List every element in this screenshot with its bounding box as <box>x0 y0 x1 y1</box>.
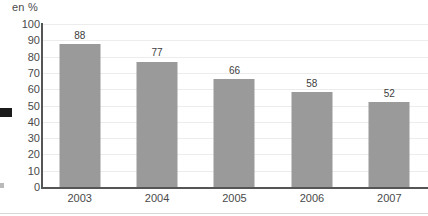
bars-layer: 8877665852 <box>41 24 428 187</box>
y-tick-label: 0 <box>0 181 40 193</box>
bar-group: 58 <box>273 24 350 187</box>
x-tick-label: 2005 <box>196 192 273 204</box>
x-axis-tick-labels: 20032004200520062007 <box>41 192 428 212</box>
x-tick-label: 2006 <box>273 192 350 204</box>
y-tick-label: 90 <box>0 34 40 46</box>
x-tick-label: 2004 <box>118 192 195 204</box>
y-tick-label: 50 <box>0 100 40 112</box>
y-tick-label: 60 <box>0 83 40 95</box>
y-axis-unit-label: en % <box>12 1 38 13</box>
bar-value-label: 88 <box>74 30 85 41</box>
bottom-rule <box>0 213 428 214</box>
bar[interactable] <box>137 62 178 188</box>
bar-value-label: 52 <box>384 88 395 99</box>
bar-group: 66 <box>196 24 273 187</box>
y-tick-label: 80 <box>0 51 40 63</box>
plot-area: 8877665852 <box>41 24 428 187</box>
bar-value-label: 58 <box>306 78 317 89</box>
x-tick-label: 2007 <box>351 192 428 204</box>
y-axis-line <box>41 23 43 188</box>
y-axis-tick-labels: 1009080706050403020100 <box>0 18 40 193</box>
bar-group: 77 <box>118 24 195 187</box>
y-tick-label: 40 <box>0 116 40 128</box>
bar[interactable] <box>214 79 255 187</box>
bar-chart-figure: en % 1009080706050403020100 8877665852 2… <box>0 0 428 216</box>
y-tick-label: 70 <box>0 67 40 79</box>
x-axis-line <box>41 187 428 189</box>
y-tick-label: 10 <box>0 165 40 177</box>
bar-value-label: 66 <box>229 65 240 76</box>
y-tick-label: 20 <box>0 148 40 160</box>
bar[interactable] <box>291 92 332 187</box>
bar-group: 88 <box>41 24 118 187</box>
bar[interactable] <box>59 44 100 187</box>
bar-value-label: 77 <box>152 47 163 58</box>
y-tick-label: 100 <box>0 18 40 30</box>
bar-group: 52 <box>351 24 428 187</box>
bar[interactable] <box>369 102 410 187</box>
x-tick-label: 2003 <box>41 192 118 204</box>
y-tick-label: 30 <box>0 132 40 144</box>
